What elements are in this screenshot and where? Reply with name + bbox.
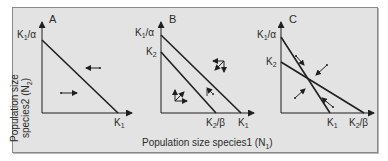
panel-b-y-tick-k1-alpha: K1/α [135, 28, 154, 39]
panel-c-y-tick-k1-alpha: K1/α [257, 30, 276, 41]
panel-b-y-tick-k2: K2 [146, 47, 157, 58]
panel-a-isocline-species1 [42, 40, 118, 113]
arrow-group-mixed-icon [207, 88, 214, 96]
panel-c-y-tick-k2: K2 [266, 57, 277, 68]
panel-a-letter: A [49, 14, 56, 25]
arrow-group-increase-icon [175, 90, 187, 101]
panel-b-x-tick-k1: K1 [238, 118, 249, 129]
arrow-group-decrease-icon [213, 61, 224, 72]
y-axis-title: Population size species2 (N2) [9, 74, 35, 142]
panel-a [42, 22, 132, 113]
panel-b [161, 22, 254, 113]
panel-b-isocline-species1 [161, 35, 241, 113]
panel-a-x-tick-k1: K1 [114, 118, 125, 129]
panel-b-letter: B [169, 14, 176, 25]
panel-c-x-tick-k2-beta: K2/β [349, 118, 368, 129]
panel-a-y-tick-k1-alpha: K1/α [17, 30, 36, 41]
panel-c [281, 22, 374, 113]
panel-c-letter: C [289, 14, 297, 25]
x-axis-title: Population size species1 (N1) [142, 137, 273, 150]
panel-c-isocline-species1 [281, 37, 330, 113]
panel-c-x-tick-k1: K1 [327, 118, 338, 129]
panel-b-x-tick-k2-beta: K2/β [206, 118, 225, 129]
